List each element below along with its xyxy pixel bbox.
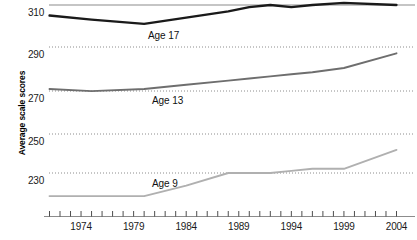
y-tick-label-310: 310 (28, 7, 44, 18)
x-tick-label-1984: 1984 (166, 221, 206, 232)
series-line-age-13 (50, 53, 397, 91)
x-tick-label-1974: 1974 (61, 221, 101, 232)
x-tick-label-1989: 1989 (219, 221, 259, 232)
series-label-age9: Age 9 (152, 178, 178, 189)
chart-container: Average scale scores 310290270250230 197… (0, 0, 417, 240)
y-tick-label-290: 290 (28, 49, 44, 60)
series-label-age13: Age 13 (152, 95, 183, 106)
series-label-age17: Age 17 (148, 30, 179, 41)
x-axis-group (44, 211, 415, 217)
x-tick-label-1979: 1979 (114, 221, 154, 232)
x-tick-label-1994: 1994 (271, 221, 311, 232)
x-tick-label-1999: 1999 (324, 221, 364, 232)
series-line-age-17 (50, 3, 397, 24)
x-tick-label-2004: 2004 (377, 221, 417, 232)
y-tick-label-270: 270 (28, 93, 44, 104)
gridlines-group (49, 5, 415, 173)
y-tick-label-230: 230 (28, 175, 44, 186)
series-lines-group (50, 3, 397, 196)
chart-plot-area (0, 0, 417, 240)
y-tick-label-250: 250 (28, 136, 44, 147)
